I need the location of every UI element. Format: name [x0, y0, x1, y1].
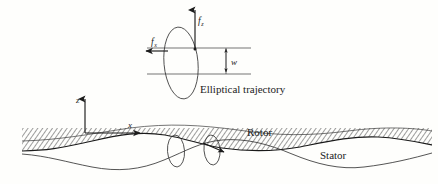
rotor-label: Rotor — [247, 126, 272, 138]
coordinate-axes: z x — [75, 95, 140, 133]
amplitude-w-label: w — [231, 57, 237, 67]
diagram-canvas: z x fz fx w Elliptical trajectory — [0, 0, 438, 184]
figure-root: z x fz fx w Elliptical trajectory — [0, 0, 438, 184]
axis-z-label: z — [75, 95, 80, 105]
fx-subscript: x — [153, 42, 157, 48]
stator-label: Stator — [320, 149, 347, 161]
fz-subscript: z — [200, 21, 204, 27]
axis-x-label: x — [127, 120, 132, 130]
contact-ellipse-left — [166, 134, 185, 167]
contact-point-dot — [194, 48, 197, 51]
fz-label: fz — [198, 16, 204, 27]
fx-label: fx — [151, 37, 157, 48]
trajectory-caption: Elliptical trajectory — [200, 83, 286, 95]
